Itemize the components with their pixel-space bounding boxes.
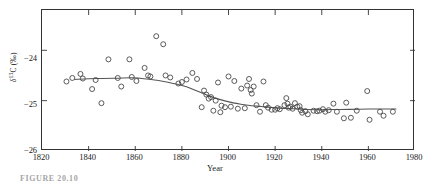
data-point (245, 83, 250, 88)
data-point (235, 106, 240, 111)
data-point (251, 84, 256, 89)
x-tick-label-1940: 1940 (312, 152, 329, 162)
data-point (344, 100, 349, 105)
data-point (99, 101, 104, 106)
data-point (119, 84, 124, 89)
data-point (64, 79, 69, 84)
data-point (348, 115, 353, 120)
x-tick-label-1960: 1960 (359, 152, 376, 162)
data-point (390, 109, 395, 114)
data-point (218, 110, 223, 115)
data-point (216, 80, 221, 85)
element-symbol: C (9, 67, 18, 72)
x-axis-title: Year (0, 163, 430, 173)
data-point (90, 87, 95, 92)
scatter-plot-svg (42, 10, 415, 151)
data-point (195, 76, 200, 81)
data-point (211, 108, 216, 113)
data-point (134, 79, 139, 84)
data-point (257, 109, 262, 114)
data-point (129, 74, 134, 79)
data-point (261, 79, 266, 84)
units-label: (‰) (9, 52, 18, 65)
data-point (199, 105, 204, 110)
data-point (106, 57, 111, 62)
data-point (190, 70, 195, 75)
data-point (127, 57, 132, 62)
data-point (168, 75, 173, 80)
x-tick-label-1900: 1900 (219, 152, 236, 162)
data-point (70, 75, 75, 80)
data-point (213, 98, 218, 103)
x-tick-label-1880: 1880 (173, 152, 190, 162)
figure-caption: FIGURE 20.10 (20, 174, 78, 183)
data-point (239, 86, 244, 91)
delta-symbol: δ (9, 79, 18, 83)
x-tick-label-1920: 1920 (266, 152, 283, 162)
data-point (226, 74, 231, 79)
figure-container: −24 −25 −26 δ13C (‰) 1820184018601880190… (0, 0, 430, 184)
data-point (232, 79, 237, 84)
data-point (341, 116, 346, 121)
x-tick-label-1980: 1980 (406, 152, 423, 162)
data-point (284, 96, 289, 101)
isotope-superscript: 13 (8, 73, 14, 79)
plot-area (41, 9, 414, 150)
y-axis-title: δ13C (‰) (8, 31, 19, 103)
data-point (381, 113, 386, 118)
data-point (154, 34, 159, 39)
data-point (365, 89, 370, 94)
data-point (254, 103, 259, 108)
data-point (161, 42, 166, 47)
data-point (228, 104, 233, 109)
x-tick-label-1840: 1840 (79, 152, 96, 162)
data-point (242, 106, 247, 111)
y-axis-ticklabels: −24 −25 −26 (0, 0, 41, 160)
y-tick-label-24: −24 (24, 54, 37, 63)
data-point (184, 77, 189, 82)
data-point (142, 65, 147, 70)
x-tick-label-1820: 1820 (33, 152, 50, 162)
data-point (367, 117, 372, 122)
data-point (247, 76, 252, 81)
data-point (331, 101, 336, 106)
x-tick-label-1860: 1860 (126, 152, 143, 162)
y-tick-label-25: −25 (24, 100, 37, 109)
